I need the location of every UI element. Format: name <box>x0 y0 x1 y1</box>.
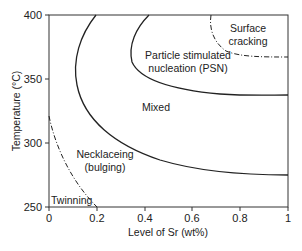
recrystallization-mechanism-map: 400 350 300 250 0 0.2 0.4 0.6 0.8 1 Leve… <box>0 0 302 251</box>
x-tick-0.8: 0.8 <box>232 212 247 224</box>
necklaceing-label-line2: (bulging) <box>85 161 126 173</box>
mixed-label: Mixed <box>142 101 170 113</box>
y-tick-250: 250 <box>24 201 42 213</box>
x-axis-ticks <box>49 207 288 211</box>
y-axis-ticks <box>45 15 49 207</box>
y-tick-350: 350 <box>24 73 42 85</box>
twinning-label: Twinning <box>51 194 93 206</box>
x-axis-title: Level of Sr (wt%) <box>128 226 208 238</box>
x-tick-1: 1 <box>285 212 291 224</box>
psn-label-line2: nucleation (PSN) <box>148 62 227 74</box>
y-axis-title: Temperature (°C) <box>10 71 22 152</box>
y-tick-400: 400 <box>24 9 42 21</box>
psn-label-line1: Particle stimulated <box>145 49 231 61</box>
necklaceing-label-line1: Necklaceing <box>76 148 133 160</box>
y-tick-300: 300 <box>24 137 42 149</box>
x-tick-0.4: 0.4 <box>137 212 152 224</box>
diagram-svg: 400 350 300 250 0 0.2 0.4 0.6 0.8 1 Leve… <box>0 0 302 251</box>
x-tick-0.2: 0.2 <box>89 212 104 224</box>
x-tick-0.6: 0.6 <box>184 212 199 224</box>
surface-cracking-label-line2: cracking <box>228 35 267 47</box>
surface-cracking-label-line1: Surface <box>230 22 266 34</box>
x-tick-0: 0 <box>46 212 52 224</box>
